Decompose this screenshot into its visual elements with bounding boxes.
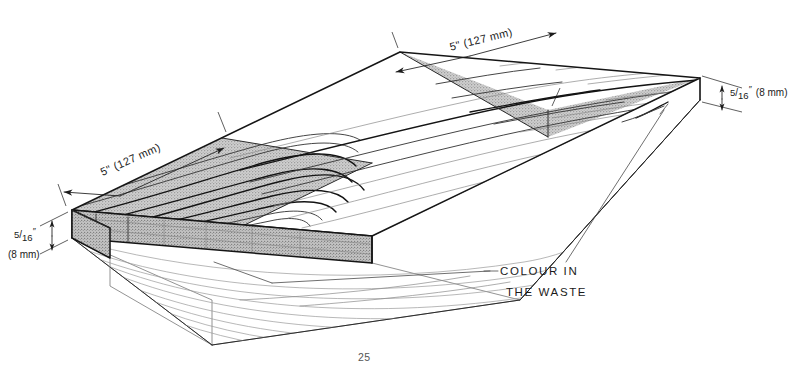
page-number: 25	[358, 351, 371, 363]
thickness-right-denominator: 16	[738, 90, 749, 101]
dimension-thickness-left: 5/16″ (8 mm)	[8, 212, 68, 260]
board-diagram-svg: 5" (127 mm) 5" (127 mm) 5/16″ (8 mm)	[0, 0, 807, 380]
thickness-left-denominator: 16	[22, 232, 33, 243]
svg-text:5/16″: 5/16″	[14, 226, 37, 243]
callout-line-1: COLOUR IN	[500, 265, 578, 277]
callout-line-2: THE WASTE	[506, 286, 587, 298]
thickness-left-inch-mark: ″	[33, 226, 37, 236]
thickness-right-inch-mark: ″	[749, 84, 753, 94]
thickness-right-metric: (8 mm)	[756, 87, 788, 98]
dimension-thickness-right: 5/16″(8 mm)	[702, 76, 788, 112]
dim-label-thickness-left: 5/16″ (8 mm)	[8, 226, 40, 260]
dim-label-width-far: 5" (127 mm)	[448, 25, 514, 52]
thickness-left-metric: (8 mm)	[8, 249, 40, 260]
figure-root: 5" (127 mm) 5" (127 mm) 5/16″ (8 mm)	[0, 0, 807, 380]
board-top-face	[72, 52, 700, 237]
leader-to-near-waste	[272, 271, 490, 283]
svg-text:5/16″(8 mm): 5/16″(8 mm)	[730, 84, 788, 101]
dim-label-thickness-right: 5/16″(8 mm)	[730, 84, 788, 101]
